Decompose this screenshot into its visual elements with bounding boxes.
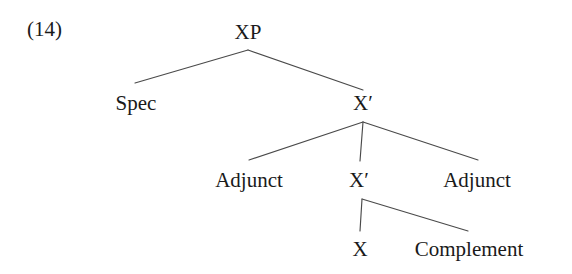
tree-node-x-head: X [352,239,367,260]
tree-node-complement: Complement [415,239,524,260]
tree-node-adjunct-right: Adjunct [443,170,511,191]
tree-node-x-bar-lower: X′ [349,170,369,191]
tree-edge-xbar-mid-to-complement [362,199,468,231]
tree-edge-xbar-top-to-adjunct-r [363,122,478,160]
tree-edge-xp-to-spec [135,50,248,83]
tree-edge-xp-to-xbar-top [248,50,363,90]
tree-edge-xbar-mid-to-x [360,199,362,231]
tree-edge-xbar-top-to-xbar-mid [360,122,363,161]
figure-canvas: (14) XP Spec X′ Adjunct X′ Adjunct X Com… [0,0,572,274]
tree-node-spec: Spec [116,93,157,114]
tree-node-x-bar-upper: X′ [353,93,373,114]
tree-node-xp: XP [235,22,262,43]
tree-edges-layer [0,0,572,274]
example-number-label: (14) [27,19,62,40]
tree-node-adjunct-left: Adjunct [215,170,283,191]
tree-edge-xbar-top-to-adjunct-l [249,122,363,160]
